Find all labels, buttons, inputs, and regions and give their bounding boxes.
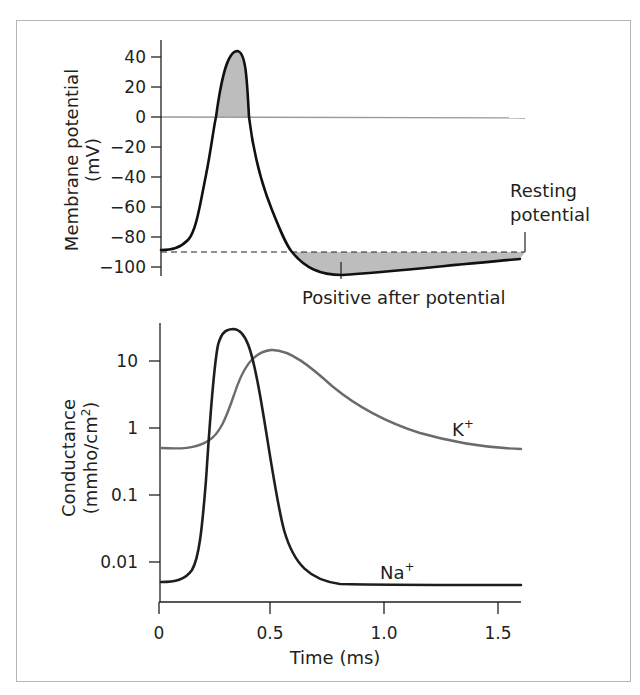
k-ion-label: K+ xyxy=(452,417,474,440)
figure: 40 20 0 −20 −40 −60 −80 −100 Membrane po… xyxy=(0,0,640,695)
y-tick-label: 0.01 xyxy=(100,552,138,572)
y-tick-label: −20 xyxy=(110,137,146,157)
y-tick-label: 40 xyxy=(124,47,146,67)
y-tick-label: 0.1 xyxy=(111,485,138,505)
y-tick-label: 10 xyxy=(116,351,138,371)
membrane-potential-curve xyxy=(161,51,520,275)
y-tick-label: −40 xyxy=(110,167,146,187)
x-axis-title: Time (ms) xyxy=(289,647,381,668)
after-potential-label: Positive after potential xyxy=(302,287,505,308)
y-tick-label: −80 xyxy=(110,227,146,247)
y-axis-unit: (mmho/cm2) xyxy=(79,402,101,515)
x-ticks xyxy=(159,602,498,614)
x-tick-label: 1.5 xyxy=(484,623,511,643)
y-tick-label: 20 xyxy=(124,77,146,97)
na-conductance-curve xyxy=(161,329,521,585)
resting-potential-label: Resting xyxy=(510,180,577,201)
y-ticks xyxy=(149,361,160,562)
y-ticks xyxy=(151,57,161,267)
membrane-potential-chart: 40 20 0 −20 −40 −60 −80 −100 Membrane po… xyxy=(61,40,590,308)
x-tick-label: 0 xyxy=(154,623,165,643)
y-tick-label: 1 xyxy=(127,418,138,438)
after-potential-shading xyxy=(292,252,525,275)
y-tick-label: −60 xyxy=(110,197,146,217)
y-axis-unit: (mV) xyxy=(82,138,103,182)
y-axis-title: Conductance xyxy=(58,399,79,517)
resting-potential-label-2: potential xyxy=(510,204,590,225)
x-tick-label: 1.0 xyxy=(370,623,397,643)
conductance-chart: 10 1 0.1 0.01 0 0.5 1.0 1.5 Time (ms) Co… xyxy=(58,323,521,668)
na-ion-label: Na+ xyxy=(380,560,415,583)
y-axis-title: Membrane potential xyxy=(61,69,82,251)
y-tick-label: 0 xyxy=(135,107,146,127)
x-tick-label: 0.5 xyxy=(256,623,283,643)
y-tick-label: −100 xyxy=(99,257,146,277)
